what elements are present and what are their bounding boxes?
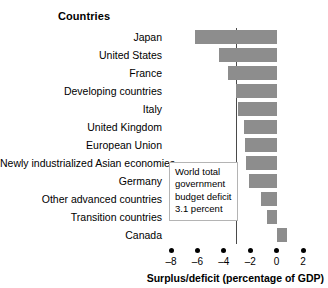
x-tick-dot <box>169 248 174 253</box>
bar <box>245 138 277 152</box>
category-label: Developing countries <box>0 82 168 100</box>
x-tick-dot <box>274 248 279 253</box>
category-label: Other advanced countries <box>0 190 168 208</box>
x-axis-title: Surplus/deficit (percentage of GDP) <box>0 272 324 284</box>
category-label: Transition countries <box>0 208 168 226</box>
annotation-line: 3.1 percent <box>175 203 233 215</box>
x-tick-label: 2 <box>290 256 316 267</box>
world-total-annotation: World total government budget deficit 3.… <box>169 162 238 221</box>
countries-column-header: Countries <box>0 10 168 22</box>
annotation-line: World total <box>175 166 233 178</box>
x-tick-label: –8 <box>158 256 184 267</box>
bar <box>249 174 277 188</box>
x-tick-label: –4 <box>211 256 237 267</box>
bar <box>277 228 288 242</box>
bar <box>195 30 277 44</box>
surplus-deficit-bar-chart: Countries Japan United States France Dev… <box>0 0 328 288</box>
annotation-line: budget deficit <box>175 191 233 203</box>
bar <box>219 48 277 62</box>
x-tick-dot <box>301 248 306 253</box>
category-label: Italy <box>0 100 168 118</box>
bar <box>267 210 276 224</box>
x-tick-dot <box>248 248 253 253</box>
category-label-list: Japan United States France Developing co… <box>0 28 168 244</box>
category-label: Germany <box>0 172 168 190</box>
x-tick-label: –2 <box>237 256 263 267</box>
bar <box>236 84 277 98</box>
bar-row <box>171 82 303 100</box>
category-label: Canada <box>0 226 168 244</box>
x-tick-label: 0 <box>264 256 290 267</box>
bar-row <box>171 46 303 64</box>
bar-row <box>171 28 303 46</box>
category-label: European Union <box>0 136 168 154</box>
bar <box>238 102 276 116</box>
bar-row <box>171 136 303 154</box>
category-label: Japan <box>0 28 168 46</box>
bar <box>244 120 277 134</box>
annotation-line: government <box>175 178 233 190</box>
category-label: Newly industrialized Asian economies <box>0 154 168 172</box>
bar-row <box>171 226 303 244</box>
bar-row <box>171 100 303 118</box>
bar-row <box>171 118 303 136</box>
x-tick-label: –6 <box>184 256 210 267</box>
x-tick-dot <box>221 248 226 253</box>
bar <box>228 66 277 80</box>
bar <box>261 192 277 206</box>
category-label: United States <box>0 46 168 64</box>
bar <box>246 156 276 170</box>
bar-row <box>171 64 303 82</box>
x-tick-dot <box>195 248 200 253</box>
category-label: United Kingdom <box>0 118 168 136</box>
category-label: France <box>0 64 168 82</box>
